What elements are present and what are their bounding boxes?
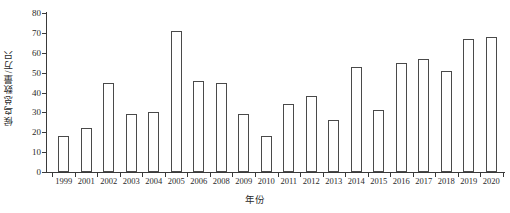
y-axis-tick-label: 10 xyxy=(32,147,41,157)
bar xyxy=(126,114,137,172)
bar xyxy=(238,114,249,172)
y-axis-tick-mark xyxy=(42,172,46,173)
x-axis-tick-labels: 1999200120022003200420052006200820092010… xyxy=(46,176,506,190)
y-axis-tick-label: 50 xyxy=(32,68,41,78)
y-axis-tick-label: 60 xyxy=(32,48,41,58)
y-axis-tick-label: 40 xyxy=(32,88,41,98)
bar xyxy=(463,39,474,172)
x-axis-tick-label: 2004 xyxy=(145,176,162,186)
x-axis-tick-label: 2019 xyxy=(460,176,477,186)
x-axis-line xyxy=(46,172,505,173)
bar xyxy=(261,136,272,172)
x-axis-tick-label: 2016 xyxy=(393,176,410,186)
x-axis-tick-label: 2006 xyxy=(190,176,207,186)
x-axis-tick-label: 2010 xyxy=(258,176,275,186)
bar xyxy=(396,63,407,172)
y-axis-tick-mark xyxy=(42,93,46,94)
bar xyxy=(171,31,182,172)
y-axis-tick-mark xyxy=(42,112,46,113)
y-axis-tick-mark xyxy=(42,132,46,133)
x-axis-tick-label: 2011 xyxy=(280,176,297,186)
bar-chart-figure: 候鸟总数量/万只 01020304050607080 1999200120022… xyxy=(0,0,510,213)
x-axis-tick-label: 2018 xyxy=(438,176,455,186)
x-axis-tick-label: 2003 xyxy=(123,176,140,186)
bar xyxy=(418,59,429,172)
bar xyxy=(81,128,92,172)
y-axis-tick-mark xyxy=(42,152,46,153)
bar xyxy=(283,104,294,172)
x-axis-tick-label: 2008 xyxy=(213,176,230,186)
y-axis-tick-label: 20 xyxy=(32,127,41,137)
y-axis-tick-labels: 01020304050607080 xyxy=(18,0,44,180)
x-axis-tick-label: 2009 xyxy=(235,176,252,186)
bar xyxy=(148,112,159,172)
y-axis-tick-mark xyxy=(42,73,46,74)
x-axis-title: 年份 xyxy=(0,192,510,206)
x-axis-tick-label: 1999 xyxy=(55,176,72,186)
bar xyxy=(441,71,452,172)
x-axis-tick-label: 2001 xyxy=(78,176,95,186)
x-axis-tick-label: 2017 xyxy=(415,176,432,186)
bar xyxy=(103,83,114,172)
y-axis-tick-label: 30 xyxy=(32,107,41,117)
y-axis-tick-label: 70 xyxy=(32,28,41,38)
plot-area xyxy=(46,13,504,172)
bar xyxy=(193,81,204,172)
x-axis-tick-label: 2005 xyxy=(168,176,185,186)
y-axis-title-text: 候鸟总数量/万只 xyxy=(2,49,16,126)
x-axis-tick-label: 2020 xyxy=(483,176,500,186)
y-axis-line xyxy=(46,12,47,173)
x-axis-tick-label: 2014 xyxy=(348,176,365,186)
y-axis-tick-label: 0 xyxy=(37,167,42,177)
y-axis-tick-mark xyxy=(42,33,46,34)
y-axis-tick-mark xyxy=(42,53,46,54)
y-axis-tick-label: 80 xyxy=(32,8,41,18)
bar xyxy=(58,136,69,172)
bar xyxy=(306,96,317,172)
y-axis-tick-mark xyxy=(42,13,46,14)
bar xyxy=(351,67,362,172)
x-axis-tick-label: 2002 xyxy=(100,176,117,186)
bar xyxy=(373,110,384,172)
x-axis-tick-label: 2013 xyxy=(325,176,342,186)
x-axis-tick-label: 2015 xyxy=(370,176,387,186)
bar xyxy=(486,37,497,172)
bar xyxy=(328,120,339,172)
x-axis-tick-label: 2012 xyxy=(303,176,320,186)
bar xyxy=(216,83,227,172)
y-axis-title: 候鸟总数量/万只 xyxy=(0,0,18,175)
